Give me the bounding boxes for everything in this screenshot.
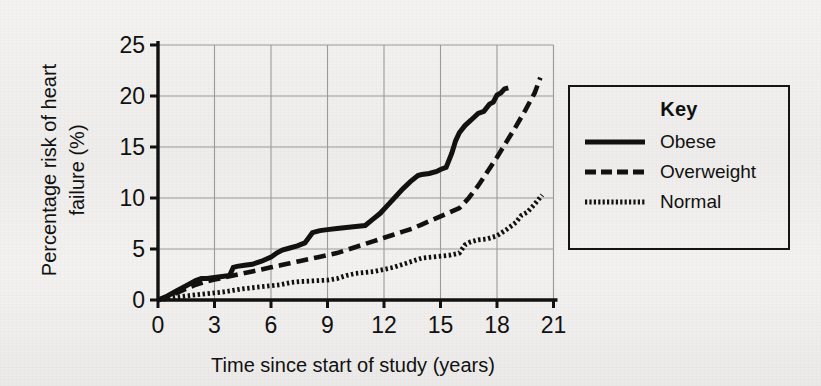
legend-item-normal: Normal — [570, 192, 788, 211]
y-tick-label: 5 — [132, 236, 145, 262]
legend-label-normal: Normal — [660, 192, 721, 211]
legend-item-overweight: Overweight — [570, 162, 788, 181]
legend-label-obese: Obese — [660, 132, 716, 151]
chart-legend: Key Obese Overweight Norm — [568, 85, 790, 250]
axes — [150, 41, 558, 308]
series-line-obese — [158, 88, 508, 300]
x-tick-label: 3 — [208, 312, 221, 338]
y-tick-label: 10 — [119, 185, 145, 211]
x-tick-label: 12 — [371, 312, 397, 338]
y-tick-label: 15 — [119, 134, 145, 160]
data-series — [158, 78, 542, 300]
y-tick-label: 25 — [119, 32, 145, 58]
legend-label-overweight: Overweight — [660, 162, 756, 181]
y-tick-label: 20 — [119, 83, 145, 109]
x-tick-label: 15 — [428, 312, 454, 338]
x-tick-label: 6 — [265, 312, 278, 338]
legend-swatch-dotted-icon — [584, 195, 646, 209]
legend-swatch-solid-icon — [584, 135, 646, 149]
legend-title: Key — [570, 98, 788, 121]
x-tick-label: 0 — [152, 312, 165, 338]
legend-swatch-dashed-icon — [584, 165, 646, 179]
x-tick-label: 21 — [541, 312, 567, 338]
grid-lines — [158, 45, 554, 300]
x-tick-label: 9 — [321, 312, 334, 338]
chart-figure: 0510152025036912151821 Percentage risk o… — [0, 0, 821, 386]
x-tick-label: 18 — [484, 312, 510, 338]
legend-item-obese: Obese — [570, 132, 788, 151]
y-tick-label: 0 — [132, 287, 145, 313]
tick-labels: 0510152025036912151821 — [119, 32, 566, 338]
